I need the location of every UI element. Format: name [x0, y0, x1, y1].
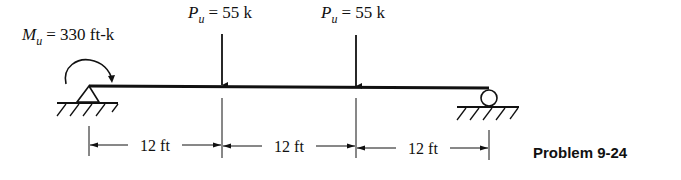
dimension-3-label: 12 ft: [408, 140, 438, 157]
moment-symbol: M: [21, 25, 37, 44]
load-2-symbol: P: [320, 3, 331, 22]
point-load-2: Pu= 55 k: [320, 3, 385, 86]
point-load-1: Pu= 55 k: [187, 3, 252, 85]
problem-caption: Problem 9-24: [533, 144, 628, 161]
svg-text:Mu= 330 ft-k: Mu= 330 ft-k: [21, 25, 115, 48]
moment-subscript: u: [36, 34, 42, 48]
moment-label: Mu= 330 ft-k: [21, 25, 115, 48]
load-2-value: = 55 k: [341, 3, 385, 22]
dimension-1-label: 12 ft: [140, 137, 170, 154]
load-2-subscript: u: [331, 12, 337, 26]
dimension-2: 12 ft: [223, 138, 355, 155]
dimension-1: 12 ft: [90, 137, 221, 154]
moment-value: = 330 ft-k: [46, 25, 115, 44]
beam: [89, 86, 489, 88]
svg-text:Pu= 55 k: Pu= 55 k: [320, 3, 385, 26]
svg-text:Pu= 55 k: Pu= 55 k: [187, 3, 252, 26]
roller-support-icon: [457, 90, 519, 120]
dimension-2-label: 12 ft: [274, 138, 304, 155]
beam-diagram: Mu= 330 ft-k Pu= 55 k Pu= 55 k: [0, 0, 681, 180]
pin-support-icon: [57, 86, 118, 116]
load-1-subscript: u: [198, 12, 204, 26]
dimension-3: 12 ft: [357, 140, 488, 157]
moment-arrow-icon: [65, 60, 115, 84]
load-1-value: = 55 k: [208, 3, 252, 22]
load-1-symbol: P: [187, 3, 198, 22]
